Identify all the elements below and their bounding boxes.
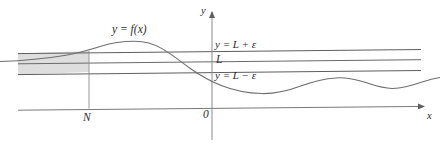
upper-bound-label: y = L + ε [215, 39, 256, 50]
curve-label: y = f(x) [112, 24, 147, 36]
n-marker-label: N [83, 112, 91, 124]
limit-value-label: L [216, 54, 222, 66]
lower-bound-label: y = L − ε [215, 70, 256, 81]
origin-label: 0 [203, 109, 209, 121]
x-axis-label: x [427, 111, 432, 122]
limit-figure: y = f(x) y = L + ε L y = L − ε N 0 y x [0, 0, 440, 146]
y-axis-label: y [201, 6, 206, 17]
x-axis-line [18, 106, 424, 110]
